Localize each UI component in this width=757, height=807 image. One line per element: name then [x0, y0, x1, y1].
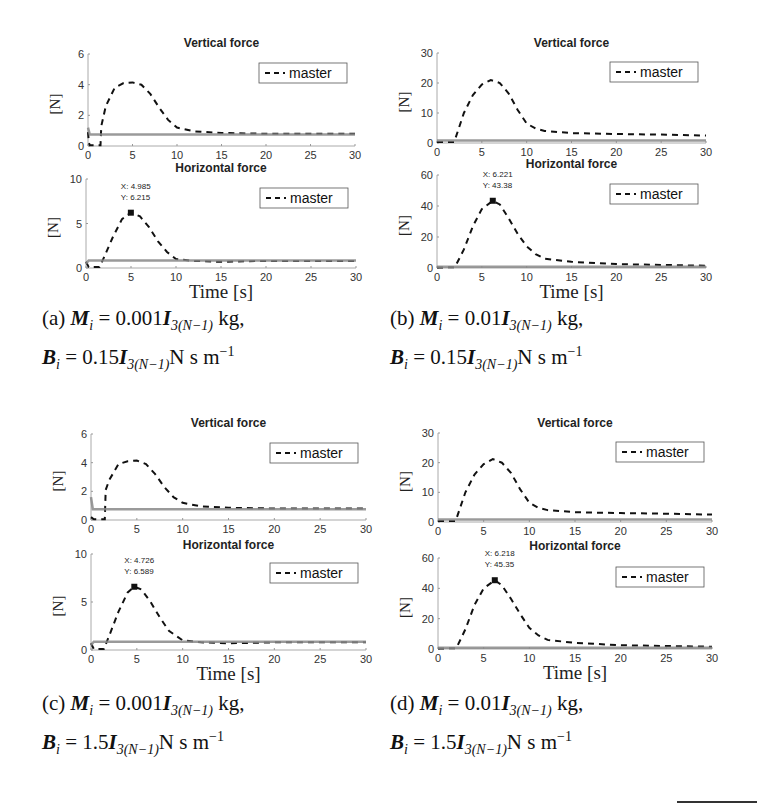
- x-tick-label: 20: [615, 525, 627, 537]
- chart-b-bottom: Horizontal force0510152025300204060[N]Ti…: [396, 157, 712, 302]
- caption-unit: N s m: [507, 730, 557, 754]
- x-tick-label: 25: [305, 271, 317, 283]
- caption-unit: kg,: [552, 691, 584, 715]
- x-tick-label: 30: [360, 653, 372, 665]
- x-tick-label: 0: [83, 271, 89, 283]
- caption-symbol-I: I: [457, 730, 465, 754]
- y-tick-label: 40: [422, 582, 434, 594]
- x-tick-label: 0: [88, 653, 94, 665]
- datatip-x: X: 6.218: [485, 549, 515, 558]
- chart-title: Vertical force: [537, 416, 613, 430]
- legend-label: master: [646, 444, 689, 460]
- y-tick-label: 20: [421, 231, 433, 243]
- x-tick-label: 20: [615, 652, 627, 664]
- y-tick-label: 10: [422, 486, 434, 498]
- x-tick-label: 10: [523, 525, 535, 537]
- x-tick-label: 5: [481, 652, 487, 664]
- caption-symbol-I: I: [109, 730, 117, 754]
- y-tick-label: 20: [422, 613, 434, 625]
- y-axis-label: [N]: [397, 597, 413, 618]
- caption-unit: kg,: [213, 691, 245, 715]
- x-tick-label: 10: [177, 653, 189, 665]
- superscript: −1: [557, 729, 572, 744]
- caption-symbol-I: I: [163, 306, 171, 330]
- chart-title: Horizontal force: [175, 161, 267, 175]
- x-tick-label: 10: [171, 149, 183, 161]
- caption-d: (d) Mi = 0.01I3(N−1) kg, Bi = 1.5I3(N−1)…: [390, 690, 583, 763]
- legend-label: master: [646, 569, 689, 585]
- y-tick-label: 30: [421, 47, 433, 59]
- y-tick-label: 0: [427, 137, 433, 149]
- datatip-marker: [492, 577, 498, 583]
- chart-title: Horizontal force: [183, 538, 275, 552]
- chart-legend: master: [610, 184, 698, 204]
- x-tick-label: 30: [700, 271, 712, 283]
- y-tick-label: 5: [76, 218, 82, 230]
- x-tick-label: 0: [88, 523, 94, 535]
- x-tick-label: 20: [610, 271, 622, 283]
- caption-symbol-M: M: [420, 306, 439, 330]
- x-tick-label: 30: [349, 149, 361, 161]
- y-tick-label: 6: [81, 428, 87, 440]
- chart-legend: master: [616, 567, 704, 587]
- caption-value: = 0.15: [60, 345, 119, 369]
- x-axis-label: Time [s]: [543, 662, 607, 683]
- caption-symbol-M: M: [420, 691, 439, 715]
- y-tick-label: 5: [81, 596, 87, 608]
- x-tick-label: 15: [215, 149, 227, 161]
- caption-symbol-B: B: [390, 345, 404, 369]
- x-tick-label: 30: [706, 652, 718, 664]
- legend-label: master: [300, 445, 343, 461]
- y-tick-label: 60: [422, 552, 434, 564]
- caption-label: (c): [42, 691, 65, 715]
- caption-unit: N s m: [159, 730, 209, 754]
- subscript: 3(N−1): [510, 318, 552, 333]
- y-axis-label: [N]: [45, 217, 61, 238]
- caption-value: = 1.5: [60, 730, 109, 754]
- y-axis-label: [N]: [47, 94, 63, 115]
- x-tick-label: 30: [360, 523, 372, 535]
- x-tick-label: 0: [85, 149, 91, 161]
- caption-label: (b): [390, 306, 415, 330]
- caption-symbol-I: I: [119, 345, 127, 369]
- datatip-y: Y: 43.38: [483, 181, 513, 190]
- x-tick-label: 20: [268, 653, 280, 665]
- y-tick-label: 0: [428, 516, 434, 528]
- caption-symbol-M: M: [71, 691, 90, 715]
- chart-title: Vertical force: [184, 36, 260, 50]
- caption-unit: kg,: [213, 306, 245, 330]
- caption-symbol-M: M: [71, 306, 90, 330]
- datatip-x: X: 4.726: [124, 556, 154, 565]
- x-tick-label: 30: [706, 525, 718, 537]
- chart-c-bottom: Horizontal force0510152025300510[N]Time …: [50, 538, 372, 684]
- x-tick-label: 0: [435, 525, 441, 537]
- subscript: 3(N−1): [171, 703, 213, 718]
- x-tick-label: 25: [304, 149, 316, 161]
- x-tick-label: 20: [268, 523, 280, 535]
- x-tick-label: 25: [314, 523, 326, 535]
- chart-b-top: Vertical force0510152025300102030[N]mast…: [396, 36, 712, 158]
- x-tick-label: 15: [569, 525, 581, 537]
- subscript: 3(N−1): [465, 742, 507, 757]
- y-axis-label: [N]: [50, 596, 66, 617]
- x-tick-label: 5: [129, 149, 135, 161]
- y-tick-label: 30: [422, 427, 434, 439]
- y-tick-label: 60: [421, 169, 433, 181]
- caption-symbol-I: I: [163, 691, 171, 715]
- legend-label: master: [300, 565, 343, 581]
- y-axis-label: [N]: [396, 92, 412, 113]
- y-tick-label: 10: [75, 548, 87, 560]
- caption-symbol-B: B: [390, 730, 404, 754]
- caption-symbol-I: I: [467, 345, 475, 369]
- chart-legend: master: [270, 563, 358, 583]
- chart-d-bottom: Horizontal force0510152025300204060[N]Ti…: [397, 539, 718, 683]
- x-tick-label: 10: [523, 652, 535, 664]
- x-tick-label: 30: [350, 271, 362, 283]
- caption-symbol-B: B: [42, 345, 56, 369]
- chart-title: Vertical force: [191, 416, 267, 430]
- y-tick-label: 6: [78, 48, 84, 60]
- x-axis-label: Time [s]: [196, 663, 260, 684]
- y-tick-label: 0: [76, 262, 82, 274]
- datatip-marker: [490, 198, 496, 204]
- y-axis-label: [N]: [50, 471, 66, 492]
